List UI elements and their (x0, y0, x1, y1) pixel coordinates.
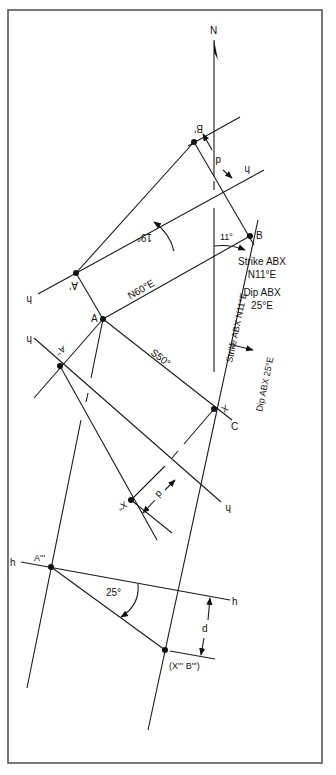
north-arrowhead-icon (214, 40, 218, 60)
label-A-prime: A' (69, 280, 78, 291)
d-label-middle: d (153, 489, 165, 501)
d-arrow-middle-left (143, 500, 155, 513)
h-label-lower-right: h (232, 596, 238, 607)
fold-line-lower-bottom (170, 651, 215, 659)
bearing-AC-label: S50° (149, 347, 173, 369)
geology-strike-dip-diagram: N h h d 19° N60°E 11° Strike ABX N11°E D… (0, 0, 336, 775)
d-label-upper: d (215, 155, 221, 166)
north-arrow (214, 40, 218, 372)
point-B-prime (191, 139, 197, 145)
line-A-X-S50 (103, 319, 232, 420)
angle-19-arc (154, 222, 174, 251)
point-XB-tripleprime (162, 647, 168, 653)
point-A-tripleprime (48, 564, 54, 570)
summary-strike-line1: Strike ABX (238, 256, 286, 267)
fold-line-middle-lower (131, 500, 172, 533)
line-A-tripleprime-XB-tripleprime (51, 567, 165, 650)
projection-X-X-dblprime (184, 409, 214, 444)
angle-11-label: 11° (220, 232, 233, 242)
north-label: N (210, 25, 217, 36)
line-A-A-dblprime (34, 319, 103, 398)
point-X (211, 406, 217, 412)
d-arrow-upper-bottom (223, 170, 232, 178)
h-label-middle-left: h (26, 334, 32, 345)
point-X-dblprime (128, 497, 134, 503)
d-arrow-upper-top (203, 134, 212, 150)
label-XB-tripleprime: (X''' B''') (169, 661, 200, 671)
point-A (100, 316, 106, 322)
line-A-prime-B-prime (76, 142, 194, 273)
summary-dip-line1: Dip ABX (243, 287, 281, 298)
label-C: C (231, 421, 238, 432)
dip-along-line-label: Dip ABX 25°E (254, 356, 275, 413)
strike-along-line-label: Strike ABX N11°E (224, 292, 249, 363)
long-line-left (91, 319, 103, 378)
h-label-upper-right: h (244, 164, 250, 175)
h-label-lower-left: h (10, 557, 16, 568)
angle-19-label: 19° (137, 232, 152, 243)
label-B: B (256, 230, 263, 241)
line-A-B-N60E (103, 236, 250, 319)
label-B-prime: B' (194, 123, 203, 134)
label-X: X (220, 403, 230, 415)
label-A: A (91, 313, 98, 324)
fold-line-middle-h (34, 338, 221, 502)
point-A-dblprime (57, 363, 63, 369)
h-label-middle-right: h (225, 503, 231, 514)
summary-dip-line2: 25°E (251, 300, 273, 311)
d-label-lower: d (202, 623, 208, 634)
point-B (247, 233, 253, 239)
point-A-prime (73, 270, 79, 276)
angle-25-label: 25° (106, 587, 121, 598)
d-arrow-lower-bottom (201, 638, 204, 655)
label-X-dblprime: X'' (115, 499, 128, 513)
d-arrow-lower-top (208, 598, 210, 620)
angle-25-arc (121, 584, 138, 617)
label-A-dblprime: A'' (54, 344, 67, 358)
label-A-tripleprime: A''' (34, 553, 45, 563)
h-label-upper-left: h (26, 294, 32, 305)
projection-A-prime-A (76, 273, 103, 319)
summary-strike-line2: N11°E (248, 269, 277, 280)
d-arrow-middle-right (165, 480, 175, 490)
projection-B-prime-B (194, 142, 254, 245)
